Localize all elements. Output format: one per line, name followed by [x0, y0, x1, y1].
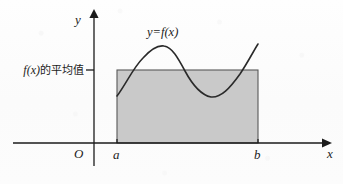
lower-bound-label: a [113, 148, 120, 161]
mean-value-rectangle [117, 70, 258, 143]
mean-value-label-cn: 的平均值 [40, 64, 84, 77]
mean-value-label: f(x)的平均值 [23, 64, 84, 76]
upper-bound-label: b [254, 148, 261, 161]
origin-label: O [74, 147, 83, 160]
curve-label: y=f(x) [147, 26, 178, 39]
y-axis-arrow-icon [89, 9, 98, 18]
y-axis-label: y [75, 13, 81, 26]
x-axis-label: x [327, 147, 333, 160]
mean-value-label-fx: f(x) [23, 63, 40, 77]
average-value-figure: f(x)的平均值 y=f(x) y x O a b [0, 0, 343, 184]
